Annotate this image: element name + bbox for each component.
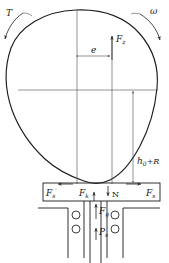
height-radius-label: h0+R <box>137 156 159 167</box>
friction-right-label: Fs <box>145 188 155 199</box>
bolt-circles <box>72 211 119 233</box>
normal-force-label: N <box>112 190 119 199</box>
gas-force-label: Fg <box>98 206 109 218</box>
cam-force-diagram: T′ ω Fz e h0+R <box>0 0 169 263</box>
force-z-label: Fz <box>115 34 126 45</box>
angular-velocity-label: ω <box>150 6 158 16</box>
torque-label: T′ <box>6 8 14 18</box>
friction-left-label: Fs′ <box>45 187 57 199</box>
force-k-label: Fk <box>78 188 89 199</box>
eccentricity-label: e <box>91 45 96 55</box>
angular-velocity-arrow <box>131 13 160 40</box>
follower-bar <box>43 183 160 201</box>
cam-body-outline <box>6 10 157 184</box>
